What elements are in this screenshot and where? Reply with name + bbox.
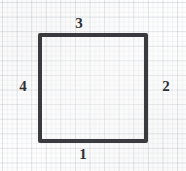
side-label-top: 3: [69, 16, 89, 31]
side-label-left: 4: [13, 79, 33, 94]
side-label-bottom: 1: [73, 147, 93, 162]
figure-canvas: 3 2 1 4: [0, 0, 186, 171]
square-shape: [38, 33, 148, 143]
side-label-right: 2: [156, 79, 176, 94]
